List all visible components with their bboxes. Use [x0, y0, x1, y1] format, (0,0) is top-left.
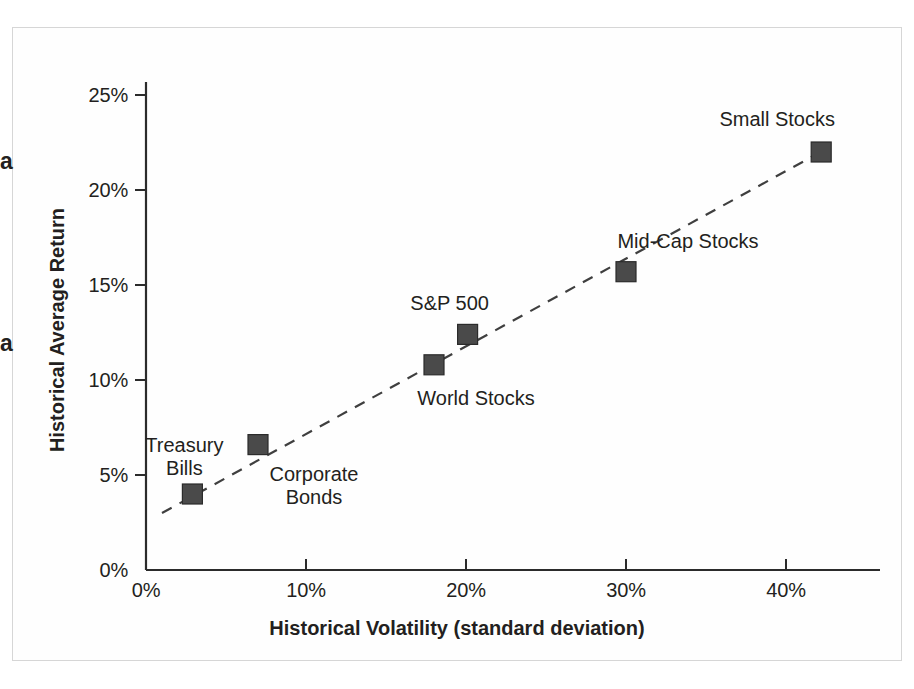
x-axis-title: Historical Volatility (standard deviatio…: [269, 617, 644, 640]
data-point-marker[interactable]: [458, 324, 478, 344]
data-point-label: S&P 500: [410, 292, 489, 315]
y-axis-ticks: [135, 95, 146, 475]
trendline-path: [162, 148, 828, 513]
data-point-marker[interactable]: [424, 355, 444, 375]
data-point-marker[interactable]: [811, 142, 831, 162]
data-point-marker[interactable]: [616, 262, 636, 282]
data-point-label: Mid-Cap Stocks: [617, 230, 758, 253]
y-tick-label: 5%: [48, 464, 128, 487]
data-point-markers: [182, 142, 831, 504]
chart-figure: a a 0%5%10%15%20%25% 0%10%20%30%40% Trea…: [0, 0, 914, 689]
data-point-label: Small Stocks: [719, 108, 835, 131]
x-tick-label: 40%: [766, 579, 805, 602]
x-tick-label: 10%: [286, 579, 325, 602]
y-tick-label: 0%: [48, 559, 128, 582]
x-tick-label: 30%: [606, 579, 645, 602]
data-point-marker[interactable]: [182, 484, 202, 504]
x-tick-label: 20%: [446, 579, 485, 602]
y-tick-label: 20%: [48, 179, 128, 202]
x-tick-label: 0%: [132, 579, 161, 602]
data-point-marker[interactable]: [248, 435, 268, 455]
data-point-label: Corporate Bonds: [270, 463, 359, 509]
trendline: [162, 148, 828, 513]
y-axis-title: Historical Average Return: [46, 208, 69, 452]
y-tick-label: 25%: [48, 84, 128, 107]
x-axis-ticks: [306, 559, 786, 570]
data-point-label: Treasury Bills: [145, 434, 223, 480]
data-point-label: World Stocks: [417, 387, 534, 410]
